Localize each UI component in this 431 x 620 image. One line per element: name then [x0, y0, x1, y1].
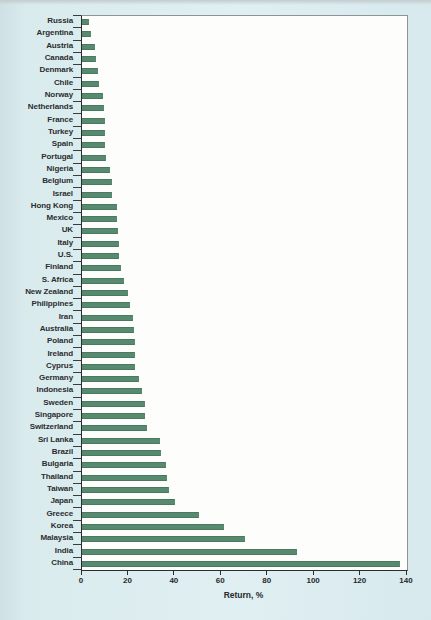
category-label: Poland [0, 336, 73, 346]
bar-poland [82, 339, 135, 345]
bar-sri-lanka [82, 438, 160, 444]
bar-philippines [82, 302, 130, 308]
bar-netherlands [82, 105, 104, 111]
category-label: Germany [0, 373, 73, 383]
y-axis-tick [73, 310, 81, 311]
y-axis-tick [73, 52, 81, 53]
bar-france [82, 118, 105, 124]
y-axis-tick [73, 409, 81, 410]
category-label: U.S. [0, 250, 73, 260]
bar-uk [82, 228, 118, 234]
y-axis-tick [73, 187, 81, 188]
bar-malaysia [82, 536, 245, 542]
x-axis-tick-label: 120 [345, 576, 375, 585]
bar-portugal [82, 155, 106, 161]
bar-sweden [82, 401, 145, 407]
y-axis-tick [73, 544, 81, 545]
y-axis-tick [73, 175, 81, 176]
bar-austria [82, 44, 95, 50]
category-label: UK [0, 225, 73, 235]
bar-singapore [82, 413, 145, 419]
plot-area [81, 15, 408, 571]
y-axis-tick [73, 77, 81, 78]
y-axis-tick [73, 113, 81, 114]
bar-nigeria [82, 167, 110, 173]
bar-canada [82, 56, 96, 62]
y-axis-tick [73, 458, 81, 459]
x-axis-tick [359, 570, 360, 575]
y-axis-tick [73, 64, 81, 65]
y-axis-tick [73, 446, 81, 447]
bar-russia [82, 19, 89, 25]
y-axis-tick [73, 323, 81, 324]
y-axis-tick [73, 261, 81, 262]
y-axis-tick [73, 138, 81, 139]
category-label: New Zealand [0, 287, 73, 297]
category-label: China [0, 558, 73, 568]
y-axis-tick [73, 286, 81, 287]
category-label: Netherlands [0, 102, 73, 112]
bar-argentina [82, 31, 91, 37]
x-axis-tick-label: 100 [298, 576, 328, 585]
x-axis-tick-label: 140 [391, 576, 421, 585]
scanned-chart-page: Return, % RussiaArgentinaAustriaCanadaDe… [0, 0, 431, 620]
bar-bulgaria [82, 462, 166, 468]
bar-indonesia [82, 388, 142, 394]
category-label: France [0, 115, 73, 125]
bar-korea [82, 524, 224, 530]
category-label: Chile [0, 78, 73, 88]
y-axis-tick [73, 200, 81, 201]
bar-belgium [82, 179, 112, 185]
y-axis-tick [73, 27, 81, 28]
x-axis-tick [127, 570, 128, 575]
category-label: Ireland [0, 349, 73, 359]
category-label: Sweden [0, 398, 73, 408]
category-label: S. Africa [0, 275, 73, 285]
bar-greece [82, 512, 199, 518]
y-axis-tick [73, 347, 81, 348]
category-label: Russia [0, 16, 73, 26]
x-axis-tick [266, 570, 267, 575]
y-axis-tick [73, 384, 81, 385]
y-axis-tick [73, 483, 81, 484]
bar-italy [82, 241, 119, 247]
y-axis-tick [73, 421, 81, 422]
category-label: Mexico [0, 213, 73, 223]
category-label: Brazil [0, 447, 73, 457]
category-label: Argentina [0, 28, 73, 38]
bar-israel [82, 192, 112, 198]
category-label: Hong Kong [0, 201, 73, 211]
category-label: Canada [0, 53, 73, 63]
category-label: Iran [0, 312, 73, 322]
category-label: Cyprus [0, 361, 73, 371]
y-axis-tick [73, 532, 81, 533]
x-axis-tick [173, 570, 174, 575]
bar-germany [82, 376, 139, 382]
category-label: Norway [0, 90, 73, 100]
category-label: Taiwan [0, 484, 73, 494]
category-label: Israel [0, 189, 73, 199]
y-axis-tick [73, 434, 81, 435]
category-label: Denmark [0, 65, 73, 75]
bar-thailand [82, 475, 167, 481]
bar-iran [82, 315, 133, 321]
category-label: Thailand [0, 472, 73, 482]
y-axis-tick [73, 274, 81, 275]
category-label: Indonesia [0, 385, 73, 395]
x-axis-tick [81, 570, 82, 575]
bar-denmark [82, 68, 98, 74]
bar-brazil [82, 450, 161, 456]
y-axis-tick [73, 249, 81, 250]
category-label: Nigeria [0, 164, 73, 174]
bar-taiwan [82, 487, 169, 493]
category-label: Portugal [0, 152, 73, 162]
bar-turkey [82, 130, 105, 136]
category-label: Malaysia [0, 533, 73, 543]
y-axis-tick [73, 15, 81, 16]
bar-new-zealand [82, 290, 128, 296]
bar-india [82, 549, 297, 555]
category-label: Turkey [0, 127, 73, 137]
y-axis-tick [73, 557, 81, 558]
y-axis-tick [73, 150, 81, 151]
category-label: Sri Lanka [0, 435, 73, 445]
